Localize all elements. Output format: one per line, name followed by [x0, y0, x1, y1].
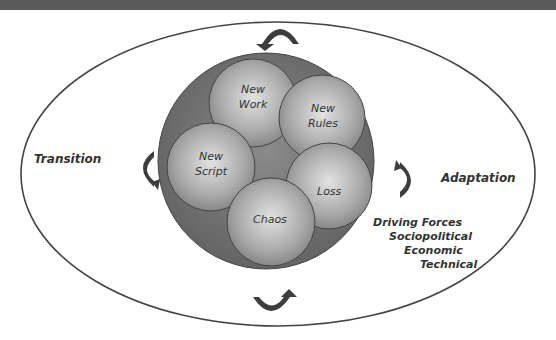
sphere-label-chaos: Chaos — [253, 213, 287, 226]
cycle-diagram — [0, 0, 556, 340]
driving-force-technical: Technical — [420, 258, 477, 271]
sphere-label-loss: Loss — [317, 185, 341, 198]
sphere-label-new-rules: NewRules — [306, 101, 340, 131]
arrow-bottom-icon — [253, 289, 297, 311]
arrow-left-icon — [143, 151, 160, 190]
arrow-top-icon — [256, 29, 299, 51]
sphere-label-new-script: NewScript — [194, 149, 228, 179]
driving-forces-title: Driving Forces — [373, 216, 462, 229]
label-adaptation: Adaptation — [441, 171, 516, 185]
arrow-right-icon — [394, 160, 411, 198]
driving-force-economic: Economic — [404, 244, 463, 257]
driving-force-sociopolitical: Sociopolitical — [389, 230, 472, 243]
sphere-label-new-work: NewWork — [237, 82, 269, 112]
label-transition: Transition — [34, 152, 101, 166]
